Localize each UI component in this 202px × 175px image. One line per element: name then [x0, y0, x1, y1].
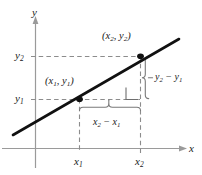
point-1-label: (x1, y1) — [45, 76, 74, 87]
x-axis-label: x — [189, 143, 194, 154]
axes-group — [2, 16, 187, 168]
y-tick-label-y2: y2 — [15, 50, 24, 61]
x-tick-label-x2: x2 — [135, 156, 144, 167]
right-angle-icon — [126, 88, 139, 100]
x-axis-arrowhead — [179, 146, 187, 152]
x-tick-label-x1: x1 — [74, 156, 83, 167]
rise-label: y2 − y1 — [155, 72, 182, 82]
run-brace-icon — [80, 100, 141, 110]
slope-diagram-figure: y x y2 y1 x1 x2 (x2, y2) (x1, y1) y2 − y… — [0, 0, 202, 175]
point-2-label: (x2, y2) — [102, 31, 131, 42]
rise-brace-icon — [142, 57, 153, 99]
run-label: x2 − x1 — [93, 117, 120, 127]
point-2-marker — [137, 54, 144, 60]
diagram-canvas — [0, 0, 202, 175]
y-axis-label: y — [32, 7, 37, 18]
y-tick-label-y1: y1 — [15, 93, 24, 104]
point-1-marker — [76, 97, 83, 103]
